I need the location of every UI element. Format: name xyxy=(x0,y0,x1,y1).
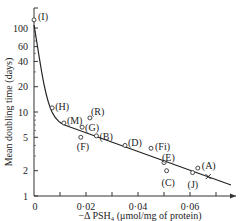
data-point xyxy=(165,169,169,173)
data-point xyxy=(191,171,195,175)
data-point xyxy=(32,18,36,22)
data-point-label: (G) xyxy=(85,122,99,134)
data-point-label: (F) xyxy=(77,141,89,153)
data-point-label: (E) xyxy=(162,152,175,164)
data-point xyxy=(149,146,153,150)
x-tick-label: 0 xyxy=(33,201,38,212)
data-point xyxy=(50,106,54,110)
x-axis-label: −Δ PSH₄ (μmol/mg of protein) xyxy=(78,210,201,221)
y-tick-label: 5 xyxy=(23,132,28,143)
data-point-label: (D) xyxy=(128,137,142,149)
data-point xyxy=(94,134,98,138)
y-tick-label: 1 xyxy=(23,191,28,202)
data-point xyxy=(80,125,84,129)
data-point xyxy=(79,135,83,139)
data-point-label: (H) xyxy=(55,101,69,113)
x-axis-arrow-icon xyxy=(230,194,236,199)
data-point-label: (J) xyxy=(188,179,199,191)
data-point xyxy=(62,121,66,125)
data-point xyxy=(196,166,200,170)
y-tick-label: 2 xyxy=(23,165,28,176)
y-tick-label: 40 xyxy=(18,56,28,67)
chart: 1251020406010000·020·040·06−Δ PSH₄ (μmol… xyxy=(0,0,240,221)
y-axis-label: Mean doubling time (days) xyxy=(3,58,15,167)
y-tick-label: 20 xyxy=(18,81,28,92)
data-point xyxy=(123,143,127,147)
y-tick-label: 10 xyxy=(18,107,28,118)
data-point-label: (I) xyxy=(38,11,48,23)
y-tick-label: 60 xyxy=(18,41,28,52)
data-point-label: (B) xyxy=(99,131,112,143)
data-point-label: (C) xyxy=(162,177,175,189)
y-tick-label: 100 xyxy=(13,23,28,34)
data-point-label: (R) xyxy=(91,106,104,118)
data-point-label: (M) xyxy=(67,115,83,127)
data-point-label: (A) xyxy=(202,160,216,172)
